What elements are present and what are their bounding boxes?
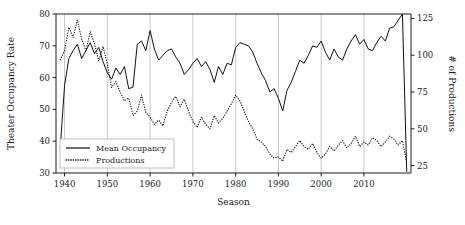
x-tick-label: 2010 <box>353 179 375 189</box>
y-axis-title: Theater Occupancy Rate <box>6 37 16 150</box>
y-tick-label-left: 30 <box>39 168 50 178</box>
chart-legend: Mean OccupancyProductions <box>60 139 174 168</box>
x-tick-label: 1950 <box>97 179 119 189</box>
y-tick-label-right: 25 <box>417 161 428 171</box>
y-tick-label-right: 100 <box>417 50 433 60</box>
legend-label: Productions <box>96 156 145 165</box>
x-axis-title: Season <box>217 197 250 207</box>
x-tick-label: 1960 <box>139 179 161 189</box>
y-tick-label-left: 60 <box>39 73 50 83</box>
line-chart: 3040506070802550751001251940195019601970… <box>0 0 465 225</box>
y-tick-label-left: 40 <box>39 136 50 146</box>
x-tick-label: 1990 <box>268 179 290 189</box>
x-tick-label: 1940 <box>54 179 76 189</box>
legend-label: Mean Occupancy <box>96 144 167 153</box>
y2-axis-title: # of Productions <box>447 55 457 132</box>
chart-figure: 3040506070802550751001251940195019601970… <box>0 0 465 225</box>
x-tick-label: 1980 <box>225 179 247 189</box>
y-tick-label-right: 125 <box>417 13 433 23</box>
y-tick-label-left: 80 <box>39 9 50 19</box>
y-tick-label-right: 50 <box>417 124 428 134</box>
y-tick-label-right: 75 <box>417 87 428 97</box>
y-tick-label-left: 70 <box>39 41 50 51</box>
x-tick-label: 2000 <box>310 179 332 189</box>
y-tick-label-left: 50 <box>39 104 50 114</box>
x-tick-label: 1970 <box>182 179 204 189</box>
